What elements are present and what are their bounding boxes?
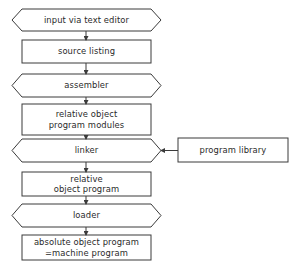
node-source-listing-label: source listing bbox=[22, 40, 151, 63]
node-program-library-label: program library bbox=[178, 138, 288, 162]
node-assembler-label: assembler bbox=[22, 74, 151, 97]
node-linker-label: linker bbox=[22, 139, 151, 162]
node-relative-object-program-label: relative object program bbox=[22, 172, 151, 196]
flowchart-diagram: input via text editor source listing ass… bbox=[0, 0, 297, 269]
node-loader-label: loader bbox=[22, 204, 151, 227]
node-absolute-object-program-label: absolute object program =machine program bbox=[22, 235, 151, 260]
node-relative-object-program-modules-label: relative object program modules bbox=[22, 104, 151, 135]
node-input-via-text-editor-label: input via text editor bbox=[22, 9, 151, 31]
